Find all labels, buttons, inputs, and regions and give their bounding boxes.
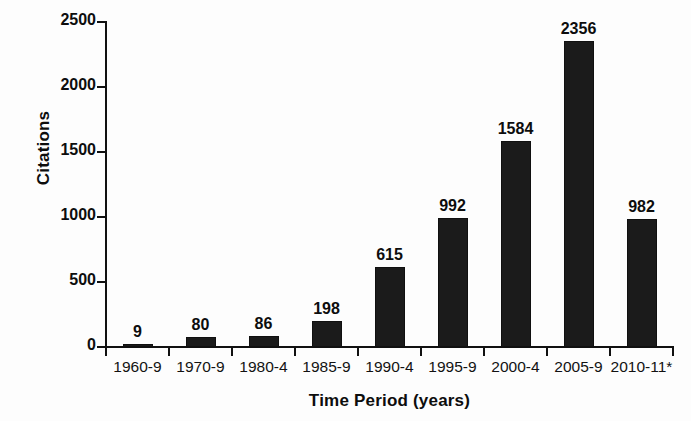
y-tick-label: 2000 bbox=[36, 76, 96, 94]
bar-chart-figure: Citations 05001000150020002500 980861986… bbox=[0, 0, 691, 421]
bar bbox=[312, 321, 342, 347]
x-tick-mark bbox=[609, 347, 611, 356]
x-tick-mark bbox=[231, 347, 233, 356]
y-tick-label: 500 bbox=[36, 271, 96, 289]
bar-value-label: 198 bbox=[287, 300, 367, 318]
bar-value-label: 615 bbox=[350, 246, 430, 264]
x-tick-mark bbox=[168, 347, 170, 356]
x-tick-mark bbox=[483, 347, 485, 356]
y-tick-label: 1000 bbox=[36, 206, 96, 224]
bar bbox=[186, 337, 216, 347]
y-tick-label: 2500 bbox=[36, 11, 96, 29]
x-tick-mark bbox=[546, 347, 548, 356]
y-tick-mark bbox=[97, 86, 106, 88]
bar-value-label: 982 bbox=[602, 198, 682, 216]
y-axis-line bbox=[105, 21, 107, 348]
bar bbox=[627, 219, 657, 347]
bar bbox=[375, 267, 405, 347]
x-tick-label: 2010-11* bbox=[602, 358, 682, 376]
y-tick-label: 0 bbox=[36, 336, 96, 354]
x-tick-mark bbox=[357, 347, 359, 356]
bar bbox=[249, 336, 279, 347]
x-tick-mark bbox=[420, 347, 422, 356]
y-tick-mark bbox=[97, 216, 106, 218]
x-tick-mark bbox=[294, 347, 296, 356]
y-tick-label: 1500 bbox=[36, 141, 96, 159]
bar bbox=[564, 41, 594, 347]
bar-value-label: 992 bbox=[413, 197, 493, 215]
x-tick-mark bbox=[105, 347, 107, 356]
bar-value-label: 2356 bbox=[539, 20, 619, 38]
y-tick-mark bbox=[97, 21, 106, 23]
x-axis-title: Time Period (years) bbox=[106, 391, 673, 411]
bar bbox=[501, 141, 531, 347]
bar-value-label: 1584 bbox=[476, 120, 556, 138]
y-tick-mark bbox=[97, 151, 106, 153]
bar bbox=[438, 218, 468, 347]
x-tick-mark bbox=[672, 347, 674, 356]
bar bbox=[123, 344, 153, 347]
y-tick-mark bbox=[97, 281, 106, 283]
